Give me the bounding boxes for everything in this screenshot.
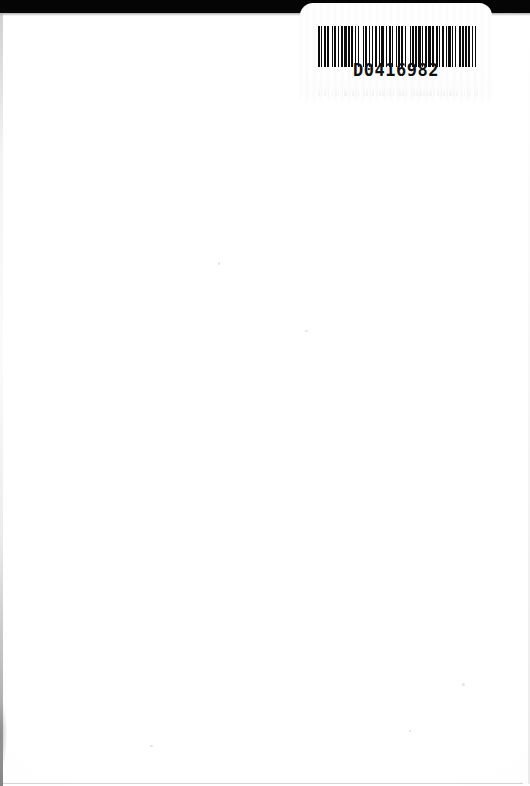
page-left-edge-shadow bbox=[0, 14, 3, 786]
dust-speck bbox=[305, 330, 308, 332]
dust-speck bbox=[150, 745, 153, 747]
barcode-number-text: D0416982 bbox=[300, 61, 492, 80]
page-paper-surface bbox=[0, 0, 530, 786]
dust-speck bbox=[218, 262, 220, 265]
dust-speck bbox=[462, 683, 465, 686]
barcode-label[interactable]: D0416982 bbox=[300, 3, 492, 101]
scanned-page: D0416982 bbox=[0, 0, 530, 786]
page-left-edge-smudge bbox=[0, 700, 9, 770]
page-bottom-edge-line bbox=[3, 783, 523, 784]
dust-speck bbox=[409, 730, 411, 732]
